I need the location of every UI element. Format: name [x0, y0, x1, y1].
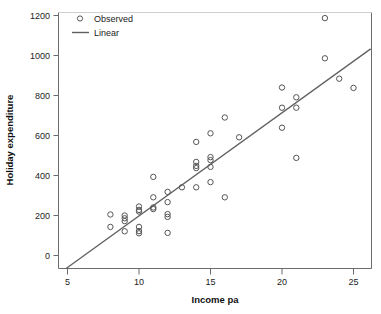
y-axis-ticks [54, 16, 59, 256]
observed-points-group [108, 15, 356, 236]
data-point-marker [294, 95, 299, 100]
data-point-marker [194, 185, 199, 190]
legend-observed-label: Observed [94, 14, 133, 24]
data-point-marker [222, 195, 227, 200]
data-point-marker [279, 105, 284, 110]
plot-canvas: 0 200 400 600 800 1000 1200 5 10 15 20 2… [0, 0, 381, 314]
y-tick-label-0: 0 [45, 251, 50, 261]
x-axis-tick-labels: 5 10 15 20 25 [65, 277, 359, 287]
scatter-plot-figure: 0 200 400 600 800 1000 1200 5 10 15 20 2… [0, 0, 381, 314]
data-point-marker [337, 76, 342, 81]
x-tick-label-15: 15 [205, 277, 215, 287]
y-tick-label-200: 200 [35, 211, 50, 221]
data-point-marker [294, 155, 299, 160]
data-point-marker [222, 115, 227, 120]
data-point-marker [165, 199, 170, 204]
data-point-marker [194, 139, 199, 144]
data-point-marker [108, 212, 113, 217]
y-tick-label-800: 800 [35, 91, 50, 101]
y-axis-title: Holiday expenditure [4, 95, 15, 186]
y-axis-tick-labels: 0 200 400 600 800 1000 1200 [30, 11, 50, 261]
data-point-marker [322, 15, 327, 20]
x-tick-label-10: 10 [134, 277, 144, 287]
y-tick-label-600: 600 [35, 131, 50, 141]
data-point-marker [108, 224, 113, 229]
data-point-marker [236, 135, 241, 140]
legend: Observed Linear [72, 14, 133, 38]
plot-frame [59, 13, 372, 269]
data-point-marker [279, 85, 284, 90]
data-point-marker [165, 189, 170, 194]
data-point-marker [151, 195, 156, 200]
y-tick-label-1200: 1200 [30, 11, 50, 21]
data-point-marker [165, 230, 170, 235]
x-axis-title: Income pa [192, 294, 240, 305]
data-point-marker [151, 174, 156, 179]
x-tick-label-20: 20 [277, 277, 287, 287]
linear-fit-line [66, 49, 371, 269]
data-point-marker [351, 85, 356, 90]
data-point-marker [322, 56, 327, 61]
y-tick-label-1000: 1000 [30, 51, 50, 61]
x-tick-label-5: 5 [65, 277, 70, 287]
data-point-marker [294, 105, 299, 110]
x-tick-label-25: 25 [348, 277, 358, 287]
data-point-marker [122, 229, 127, 234]
data-point-marker [208, 179, 213, 184]
data-point-marker [208, 131, 213, 136]
legend-linear-label: Linear [94, 28, 119, 38]
data-point-marker [279, 125, 284, 130]
legend-observed-marker-icon [77, 16, 82, 21]
y-tick-label-400: 400 [35, 171, 50, 181]
regression-line [66, 49, 371, 269]
x-axis-ticks [68, 269, 354, 275]
